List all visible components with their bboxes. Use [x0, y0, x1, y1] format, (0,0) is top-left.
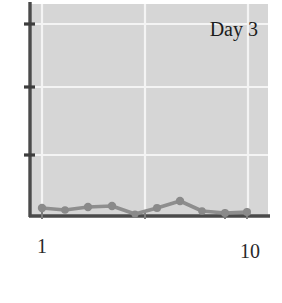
- chart-container: Day 3 1 10: [0, 0, 282, 303]
- chart-title: Day 3: [210, 18, 258, 41]
- data-point-2: [61, 206, 69, 214]
- data-point-10: [243, 208, 251, 216]
- data-point-4: [108, 202, 116, 210]
- x-axis-label-right: 10: [240, 240, 260, 262]
- data-point-5: [131, 210, 138, 217]
- x-axis-label-left: 1: [37, 235, 47, 257]
- data-point-1: [38, 204, 46, 212]
- line-chart: Day 3 1 10: [0, 0, 282, 303]
- data-point-9: [221, 209, 229, 217]
- data-point-6: [153, 204, 161, 212]
- data-point-7: [176, 197, 184, 205]
- data-point-8: [198, 207, 206, 215]
- data-point-3: [84, 203, 92, 211]
